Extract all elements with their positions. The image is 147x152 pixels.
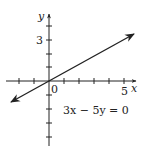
origin-label: 0 xyxy=(51,83,58,96)
y-tick-label-3: 3 xyxy=(36,34,43,47)
coordinate-plane: y x 0 5 3 3x − 5y = 0 xyxy=(0,0,147,152)
equation-label: 3x − 5y = 0 xyxy=(63,104,129,117)
x-tick-label-5: 5 xyxy=(121,85,128,98)
x-axis-label: x xyxy=(131,82,138,95)
x-axis xyxy=(6,78,136,84)
equation-line xyxy=(11,34,134,102)
y-axis-label: y xyxy=(37,10,45,23)
